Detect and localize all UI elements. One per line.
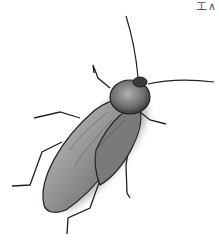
cockroach-illustration	[0, 0, 219, 244]
head	[133, 77, 147, 87]
antenna-left	[126, 16, 138, 77]
antenna-right	[148, 80, 214, 84]
